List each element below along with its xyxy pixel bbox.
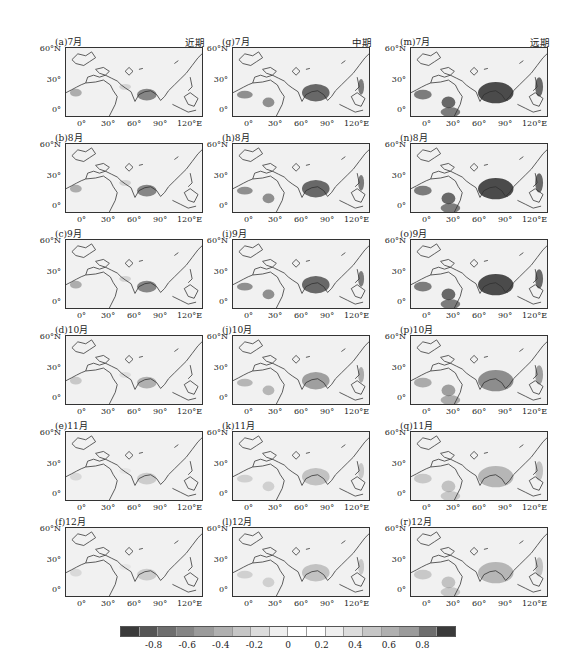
map-plot <box>410 527 548 597</box>
x-tick: 30° <box>446 407 460 416</box>
x-tick: 90° <box>320 599 334 608</box>
x-tick: 60° <box>127 599 141 608</box>
x-tick: 30° <box>101 215 115 224</box>
map-plot <box>232 335 370 405</box>
colorbar-segment <box>400 627 419 636</box>
x-ticks: 0° 30° 60° 90° 120°E <box>232 215 382 225</box>
colorbar-tick: -0.2 <box>246 640 263 650</box>
x-tick: 120°E <box>522 119 547 128</box>
y-tick-30: 30° <box>202 555 228 564</box>
colorbar-segment <box>158 627 177 636</box>
y-tick-60n: 60°N <box>35 428 61 437</box>
colorbar-tick: -0.4 <box>212 640 229 650</box>
x-tick: 90° <box>153 407 167 416</box>
y-tick-30: 30° <box>202 171 228 180</box>
y-tick-60n: 60°N <box>380 236 406 245</box>
y-tick-0: 0° <box>35 585 61 594</box>
y-tick-0: 0° <box>35 201 61 210</box>
x-tick: 30° <box>268 119 282 128</box>
y-tick-30: 30° <box>380 363 406 372</box>
y-tick-0: 0° <box>202 297 228 306</box>
x-tick: 0° <box>244 599 253 608</box>
colorbar-tick: -0.6 <box>179 640 196 650</box>
y-tick-0: 0° <box>202 489 228 498</box>
x-tick: 30° <box>268 407 282 416</box>
y-tick-30: 30° <box>202 363 228 372</box>
colorbar-segment <box>214 627 233 636</box>
x-tick: 0° <box>244 503 253 512</box>
map-plot <box>65 335 203 405</box>
x-tick: 120°E <box>522 599 547 608</box>
x-tick: 120°E <box>177 599 202 608</box>
x-ticks: 0° 30° 60° 90° 120°E <box>232 311 382 321</box>
x-ticks: 0° 30° 60° 90° 120°E <box>65 119 215 129</box>
y-tick-30: 30° <box>35 555 61 564</box>
x-tick: 120°E <box>344 311 369 320</box>
x-tick: 60° <box>472 311 486 320</box>
x-tick: 0° <box>422 407 431 416</box>
y-tick-0: 0° <box>380 297 406 306</box>
x-tick: 0° <box>422 599 431 608</box>
x-tick: 0° <box>244 311 253 320</box>
y-tick-0: 0° <box>202 585 228 594</box>
x-tick: 120°E <box>177 215 202 224</box>
x-tick: 60° <box>127 215 141 224</box>
x-ticks: 0° 30° 60° 90° 120°E <box>232 119 382 129</box>
colorbar-segment <box>344 627 363 636</box>
colorbar-tick: 0 <box>285 640 291 650</box>
x-tick: 120°E <box>522 407 547 416</box>
x-tick: 0° <box>422 503 431 512</box>
map-plot <box>65 239 203 309</box>
y-tick-30: 30° <box>380 75 406 84</box>
x-tick: 120°E <box>177 119 202 128</box>
x-tick: 120°E <box>177 407 202 416</box>
y-tick-60n: 60°N <box>202 332 228 341</box>
y-tick-30: 30° <box>35 459 61 468</box>
y-tick-60n: 60°N <box>35 236 61 245</box>
y-tick-0: 0° <box>35 105 61 114</box>
map-plot <box>232 527 370 597</box>
colorbar-segment <box>363 627 382 636</box>
map-panel-h8月: (h)8月 60°N 30° 0° <box>202 131 372 227</box>
x-tick: 0° <box>77 119 86 128</box>
y-tick-0: 0° <box>35 297 61 306</box>
y-tick-0: 0° <box>202 201 228 210</box>
y-tick-0: 0° <box>35 393 61 402</box>
y-tick-30: 30° <box>202 75 228 84</box>
x-ticks: 0° 30° 60° 90° 120°E <box>65 599 215 609</box>
x-tick: 60° <box>294 311 308 320</box>
colorbar-segment <box>140 627 159 636</box>
colorbar-segment <box>288 627 307 636</box>
x-tick: 0° <box>77 599 86 608</box>
x-ticks: 0° 30° 60° 90° 120°E <box>410 215 560 225</box>
map-plot <box>232 431 370 501</box>
map-plot <box>65 143 203 213</box>
x-tick: 30° <box>101 407 115 416</box>
x-tick: 0° <box>244 215 253 224</box>
map-plot <box>232 143 370 213</box>
map-panel-c9月: (c)9月 60°N 30° 0° <box>35 227 205 323</box>
x-tick: 0° <box>244 119 253 128</box>
x-tick: 60° <box>472 119 486 128</box>
x-tick: 30° <box>101 311 115 320</box>
y-tick-0: 0° <box>202 393 228 402</box>
x-tick: 60° <box>294 215 308 224</box>
y-tick-0: 0° <box>380 489 406 498</box>
figure-caption-cutoff <box>30 664 570 671</box>
y-tick-30: 30° <box>35 171 61 180</box>
map-panel-b8月: (b)8月 60°N 30° 0° <box>35 131 205 227</box>
map-plot <box>65 431 203 501</box>
map-panel-m7月: (m)7月 远期 60°N 30° 0° <box>380 35 550 131</box>
x-tick: 60° <box>472 407 486 416</box>
x-tick: 0° <box>422 215 431 224</box>
y-tick-0: 0° <box>35 489 61 498</box>
colorbar-tick: 0.2 <box>314 640 328 650</box>
x-tick: 90° <box>320 119 334 128</box>
map-plot <box>410 47 548 117</box>
y-tick-60n: 60°N <box>380 524 406 533</box>
map-panel-n8月: (n)8月 60°N 30° 0° <box>380 131 550 227</box>
x-tick: 0° <box>77 503 86 512</box>
y-tick-60n: 60°N <box>380 44 406 53</box>
map-panel-e11月: (e)11月 60°N 30° 0° <box>35 419 205 515</box>
x-tick: 90° <box>320 407 334 416</box>
